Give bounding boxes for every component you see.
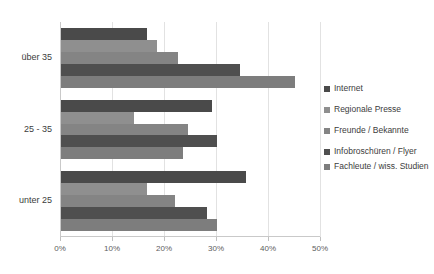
bar-row: [61, 147, 320, 159]
bar-row: [61, 195, 320, 207]
tick-mark: [268, 237, 269, 241]
bar-group: [61, 28, 320, 88]
bar-row: [61, 112, 320, 124]
x-axis-line: [60, 236, 320, 237]
bar-row: [61, 135, 320, 147]
legend-item[interactable]: Freunde / Bekannte: [324, 125, 434, 136]
bar[interactable]: [61, 76, 295, 88]
bar[interactable]: [61, 207, 207, 219]
x-axis-tick-label: 30%: [196, 244, 236, 253]
legend-label: Infobroschüren / Flyer: [334, 146, 417, 157]
legend-swatch-icon: [324, 107, 330, 113]
legend-label: Internet: [334, 83, 363, 94]
bar[interactable]: [61, 100, 212, 112]
bar-row: [61, 183, 320, 195]
bar[interactable]: [61, 124, 188, 136]
tick-mark: [320, 237, 321, 241]
category-label: über 35: [0, 52, 52, 62]
legend-swatch-icon: [324, 86, 330, 92]
legend-item[interactable]: Regionale Presse: [324, 104, 434, 115]
bar-row: [61, 76, 320, 88]
tick-mark: [112, 237, 113, 241]
bar-row: [61, 28, 320, 40]
bar-group: [61, 100, 320, 160]
bar[interactable]: [61, 112, 134, 124]
legend-label: Regionale Presse: [334, 104, 401, 115]
legend-label: Freunde / Bekannte: [334, 125, 409, 136]
bar-row: [61, 207, 320, 219]
legend-swatch-icon: [324, 149, 330, 155]
legend-swatch-icon: [324, 128, 330, 134]
x-axis-tick-label: 0%: [40, 244, 80, 253]
bar-row: [61, 171, 320, 183]
bar-row: [61, 219, 320, 231]
bar[interactable]: [61, 135, 217, 147]
plot-area: [60, 22, 320, 237]
bar[interactable]: [61, 195, 175, 207]
bar[interactable]: [61, 147, 183, 159]
legend-item[interactable]: Internet: [324, 83, 434, 94]
x-axis-tick-label: 50%: [300, 244, 340, 253]
bar-row: [61, 52, 320, 64]
legend-label: Fachleute / wiss. Studien: [334, 161, 429, 172]
gridline: [320, 22, 321, 237]
legend: InternetRegionale PresseFreunde / Bekann…: [324, 83, 434, 176]
category-label: unter 25: [0, 195, 52, 205]
category-label: 25 - 35: [0, 124, 52, 134]
bar-row: [61, 124, 320, 136]
bar-row: [61, 64, 320, 76]
bar[interactable]: [61, 219, 217, 231]
x-axis-tick-label: 40%: [248, 244, 288, 253]
legend-swatch-icon: [324, 164, 330, 170]
legend-item[interactable]: Fachleute / wiss. Studien: [324, 161, 434, 172]
bar[interactable]: [61, 40, 157, 52]
bar[interactable]: [61, 171, 246, 183]
legend-item[interactable]: Infobroschüren / Flyer: [324, 146, 434, 157]
tick-mark: [164, 237, 165, 241]
bar-row: [61, 40, 320, 52]
bar[interactable]: [61, 183, 147, 195]
bar[interactable]: [61, 52, 178, 64]
tick-mark: [216, 237, 217, 241]
bar-chart: 0%10%20%30%40%50% über 3525 - 35unter 25…: [0, 0, 434, 274]
bar[interactable]: [61, 28, 147, 40]
x-axis-tick-label: 10%: [92, 244, 132, 253]
bar-row: [61, 100, 320, 112]
bar[interactable]: [61, 64, 240, 76]
tick-mark: [60, 237, 61, 241]
x-axis-tick-label: 20%: [144, 244, 184, 253]
bar-group: [61, 171, 320, 231]
